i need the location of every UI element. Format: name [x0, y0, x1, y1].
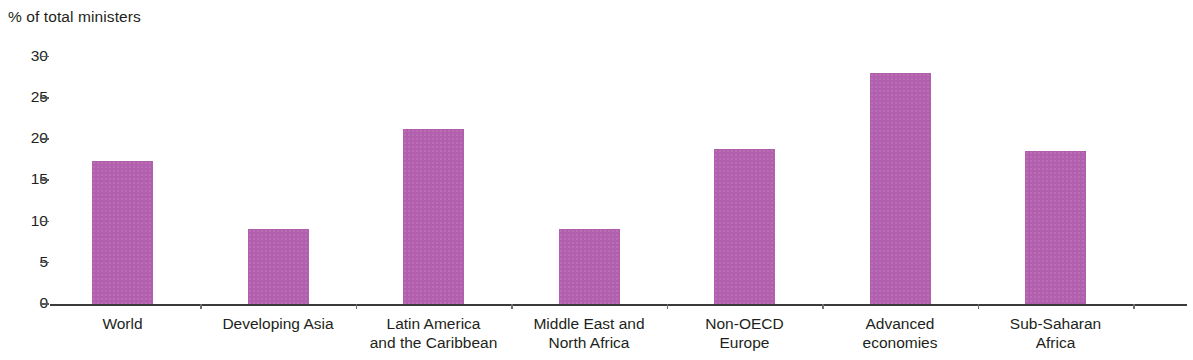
bar-chart-figure: % of total ministers 051015202530 WorldD…	[0, 0, 1193, 360]
x-axis-category-label: Non-OECDEurope	[655, 314, 835, 352]
x-axis-category-label-line: Non-OECD	[655, 314, 835, 333]
y-axis-tick-mark	[40, 179, 49, 181]
x-axis-category-label: Advancedeconomies	[810, 314, 990, 352]
x-axis-tick-mark	[1133, 304, 1134, 309]
x-axis-category-label: World	[33, 314, 213, 333]
x-axis-category-label: Sub-SaharanAfrica	[966, 314, 1146, 352]
y-axis-tick-mark	[40, 303, 49, 305]
y-axis-title: % of total ministers	[8, 8, 141, 26]
y-axis-tick-mark	[40, 138, 49, 140]
bar	[92, 161, 153, 304]
y-axis-tick-mark	[40, 56, 49, 58]
bar	[248, 229, 309, 304]
x-axis-category-label-line: Advanced	[810, 314, 990, 333]
x-axis-tick-mark	[200, 304, 201, 309]
x-axis-category-label: Middle East andNorth Africa	[499, 314, 679, 352]
x-axis-category-label-line: Europe	[655, 333, 835, 352]
y-axis-tick-mark	[40, 97, 49, 99]
bar	[403, 129, 464, 304]
x-axis-category-label-line: Africa	[966, 333, 1146, 352]
x-axis-category-label-line: Developing Asia	[188, 314, 368, 333]
y-axis-tick-mark	[40, 262, 49, 264]
x-axis-category-label-line: Latin America	[344, 314, 524, 333]
x-axis-category-label-line: Middle East and	[499, 314, 679, 333]
x-axis-tick-mark	[822, 304, 823, 309]
x-axis-category-label-line: and the Caribbean	[344, 333, 524, 352]
y-axis-tick-mark	[40, 221, 49, 223]
x-axis-tick-mark	[356, 304, 357, 309]
x-axis-category-label-line: Sub-Saharan	[966, 314, 1146, 333]
x-axis-category-label-line: World	[33, 314, 213, 333]
x-axis-tick-mark	[667, 304, 668, 309]
bar	[559, 229, 620, 304]
x-axis-category-label: Latin Americaand the Caribbean	[344, 314, 524, 352]
bar	[870, 73, 931, 304]
x-axis-category-label: Developing Asia	[188, 314, 368, 333]
x-axis-tick-mark	[978, 304, 979, 309]
bar	[1025, 151, 1086, 304]
bar	[714, 149, 775, 304]
x-axis-tick-mark	[511, 304, 512, 309]
x-axis-category-label-line: economies	[810, 333, 990, 352]
x-axis-category-label-line: North Africa	[499, 333, 679, 352]
